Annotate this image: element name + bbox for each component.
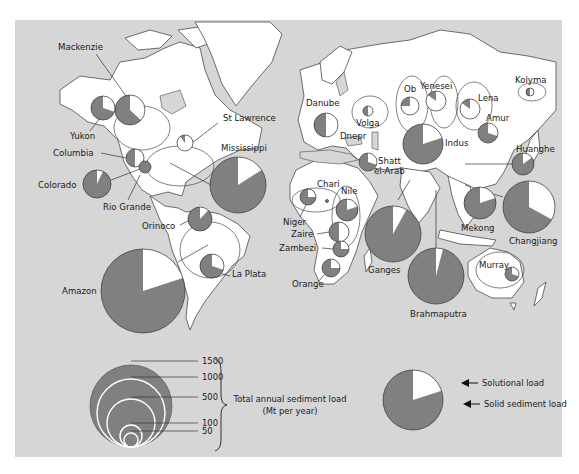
label-shatt-el-arab: Shatt xyxy=(378,156,402,166)
label-danube: Danube xyxy=(306,98,340,108)
label-colorado: Colorado xyxy=(38,180,76,190)
pie-huanghe xyxy=(512,153,534,175)
label-ganges: Ganges xyxy=(368,265,401,275)
pie-changjiang xyxy=(503,181,555,233)
solid-arrow xyxy=(463,400,480,408)
pie-volga xyxy=(363,106,373,116)
label-changjiang: Changjiang xyxy=(509,236,558,246)
pie-orange xyxy=(322,259,340,277)
pie-rio-grande xyxy=(139,161,151,173)
pie-ob xyxy=(401,97,419,115)
pie-amur xyxy=(478,123,498,143)
label-mississippi: Mississippi xyxy=(221,143,267,153)
pie-nile xyxy=(336,199,358,221)
pie-mekong xyxy=(464,187,496,219)
label-st-lawrence: St Lawrence xyxy=(223,113,276,123)
label-indus: Indus xyxy=(445,138,469,148)
pie-brahmaputra xyxy=(408,248,464,304)
pie-ganges xyxy=(365,206,421,262)
label-volga: Volga xyxy=(356,118,380,128)
size-value-1000: 1000 xyxy=(202,372,223,382)
label-kolyma: Kolyma xyxy=(515,75,547,85)
pie-danube xyxy=(314,113,338,137)
label-murray: Murray xyxy=(479,260,509,270)
size-legend: 1500100050010050 xyxy=(90,356,223,447)
pie-orinoco xyxy=(188,207,212,231)
label-yukon: Yukon xyxy=(69,131,95,141)
pie-yenesei xyxy=(426,91,446,111)
pie-chari xyxy=(326,200,329,203)
arctic-islands xyxy=(125,30,172,50)
label-chari: Chari xyxy=(317,179,340,189)
label-mekong: Mekong xyxy=(461,223,495,233)
pie-mackenzie xyxy=(115,95,145,125)
label-amur: Amur xyxy=(486,113,510,123)
legend-example-pie xyxy=(383,370,443,430)
label-yenesei: Yenesei xyxy=(419,81,452,91)
label-orinoco: Orinoco xyxy=(142,221,175,231)
label-ob: Ob xyxy=(404,84,416,94)
solutional-arrow xyxy=(461,379,478,387)
label-dnepr: Dnepr xyxy=(340,131,367,141)
label-lena: Lena xyxy=(478,93,499,103)
pie-zaire xyxy=(329,222,349,242)
label-nile: Nile xyxy=(341,186,358,196)
caspian xyxy=(372,132,378,150)
size-legend-title: Total annual sediment load xyxy=(232,394,346,404)
pie-amazon xyxy=(101,249,185,333)
label-la-plata: La Plata xyxy=(232,269,266,279)
size-legend-units: (Mt per year) xyxy=(263,406,318,416)
solutional-load-label: Solutional load xyxy=(482,378,544,388)
label-mackenzie: Mackenzie xyxy=(58,42,103,52)
size-value-50: 50 xyxy=(202,426,213,436)
size-value-500: 500 xyxy=(202,392,218,402)
pie-kolyma xyxy=(526,88,534,96)
label-zaire: Zaire xyxy=(291,229,313,239)
label-brahmaputra: Brahmaputra xyxy=(410,309,467,319)
label-rio-grande: Rio Grande xyxy=(103,202,151,212)
mediterranean xyxy=(300,150,358,164)
label-shatt-el-arab-line2: el-Arab xyxy=(374,166,405,176)
label-columbia: Columbia xyxy=(53,148,94,158)
pie-mississippi xyxy=(210,157,266,213)
pie-indus xyxy=(403,124,443,164)
new-zealand xyxy=(534,282,546,306)
pie-zambezi xyxy=(333,241,349,257)
world-map: MackenzieYukonColumbiaSt LawrenceMississ… xyxy=(0,0,579,474)
label-orange: Orange xyxy=(292,279,324,289)
pie-la-plata xyxy=(200,254,224,278)
tasmania xyxy=(510,303,516,310)
solid-sediment-load-label: Solid sediment load xyxy=(484,399,567,409)
label-niger: Niger xyxy=(283,217,307,227)
pie-yukon xyxy=(91,96,115,120)
pie-legend xyxy=(383,370,443,430)
label-zambezi: Zambezi xyxy=(279,243,316,253)
label-amazon: Amazon xyxy=(62,286,97,296)
label-huanghe: Huanghe xyxy=(516,144,555,154)
pie-niger xyxy=(300,189,316,205)
pie-colorado xyxy=(83,170,111,198)
pie-lena xyxy=(460,99,480,119)
pie-st-lawrence xyxy=(177,135,193,151)
